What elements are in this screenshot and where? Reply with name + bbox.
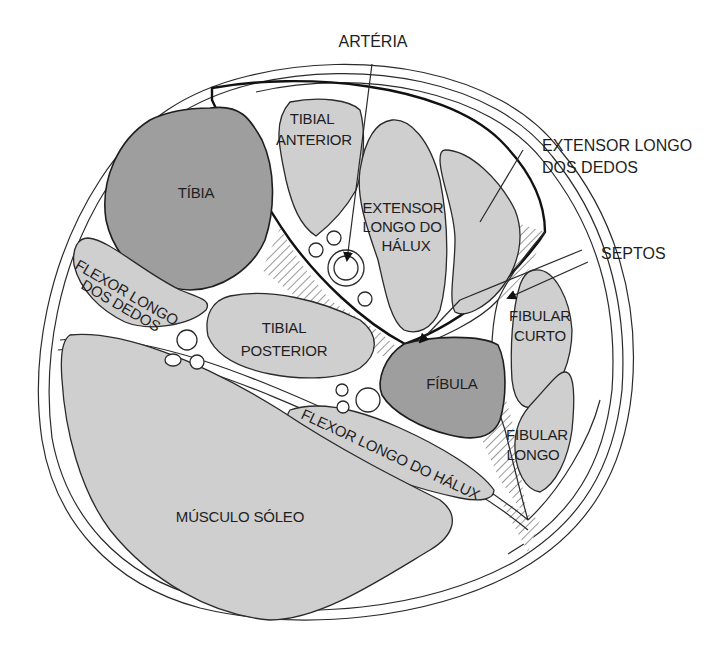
label-septos: SEPTOS bbox=[601, 245, 666, 262]
vessel-circle bbox=[190, 355, 204, 369]
anterior-tibial-artery-inner bbox=[334, 256, 358, 280]
label-tibial-anterior-1: TIBIAL bbox=[290, 110, 335, 127]
leg-cross-section-diagram: TÍBIA TIBIAL ANTERIOR EXTENSOR LONGO DO … bbox=[0, 0, 720, 666]
vessel-circle bbox=[336, 384, 348, 396]
label-fibular-curto-2: CURTO bbox=[514, 327, 566, 344]
tibial-anterior-muscle: TIBIAL ANTERIOR bbox=[276, 99, 363, 236]
vessel-circle bbox=[327, 231, 341, 245]
vessel-circle bbox=[356, 388, 380, 412]
label-extensor-longo-dedos-1: EXTENSOR LONGO bbox=[542, 137, 692, 154]
label-fibular-longo-2: LONGO bbox=[506, 446, 559, 463]
label-extensor-longo-halux-3: HÁLUX bbox=[381, 237, 430, 254]
vessel-circle bbox=[165, 354, 181, 366]
label-tibial-anterior-2: ANTERIOR bbox=[276, 131, 352, 148]
label-tibial-posterior-2: POSTERIOR bbox=[241, 342, 328, 359]
label-extensor-longo-dedos-2: DOS DEDOS bbox=[542, 159, 638, 176]
diagram-canvas: TÍBIA TIBIAL ANTERIOR EXTENSOR LONGO DO … bbox=[0, 0, 720, 666]
fibula-bone: FÍBULA bbox=[380, 337, 505, 437]
vessel-circle bbox=[358, 292, 372, 306]
label-extensor-longo-halux-2: LONGO DO bbox=[362, 218, 441, 235]
vessel-circle bbox=[309, 243, 323, 257]
label-tibia: TÍBIA bbox=[178, 184, 215, 201]
label-fibular-longo-1: FIBULAR bbox=[506, 426, 568, 443]
label-fibula: FÍBULA bbox=[426, 375, 478, 392]
vessel-circle bbox=[177, 330, 197, 350]
tibial-posterior-muscle: TIBIAL POSTERIOR bbox=[207, 293, 374, 377]
label-musculo-soleo: MÚSCULO SÓLEO bbox=[176, 508, 304, 525]
vessel-circle bbox=[337, 401, 349, 413]
label-arteria: ARTÉRIA bbox=[338, 32, 407, 50]
label-tibial-posterior-1: TIBIAL bbox=[262, 319, 307, 336]
label-fibular-curto-1: FIBULAR bbox=[509, 307, 571, 324]
label-extensor-longo-halux-1: EXTENSOR bbox=[363, 199, 444, 216]
